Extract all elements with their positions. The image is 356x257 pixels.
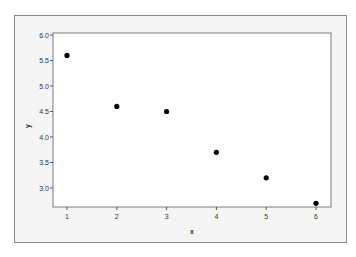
data-point xyxy=(264,175,269,180)
data-point xyxy=(214,150,219,155)
x-tick-label: 1 xyxy=(65,213,69,220)
data-point xyxy=(313,201,318,206)
x-tick-label: 3 xyxy=(165,213,169,220)
y-tick-label: 3.5 xyxy=(39,159,49,166)
y-axis-label: y xyxy=(24,124,32,128)
y-tick-label: 4.5 xyxy=(39,108,49,115)
plot-area xyxy=(53,33,331,207)
data-point xyxy=(114,104,119,109)
scatter-plot: 3.03.54.04.55.05.56.0123456xy xyxy=(0,0,356,257)
x-tick-label: 5 xyxy=(264,213,268,220)
y-tick-label: 4.0 xyxy=(39,134,49,141)
y-tick-label: 5.5 xyxy=(39,57,49,64)
y-tick-label: 6.0 xyxy=(39,32,49,39)
y-tick-label: 3.0 xyxy=(39,185,49,192)
x-tick-label: 4 xyxy=(214,213,218,220)
y-tick-label: 5.0 xyxy=(39,83,49,90)
x-tick-label: 2 xyxy=(115,213,119,220)
data-point xyxy=(64,53,69,58)
data-point xyxy=(164,109,169,114)
x-axis-label: x xyxy=(190,228,194,235)
x-tick-label: 6 xyxy=(314,213,318,220)
